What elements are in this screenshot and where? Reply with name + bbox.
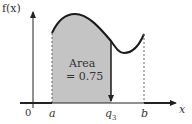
x-axis-label: x	[179, 103, 186, 116]
area-label-line2: = 0.75	[66, 70, 103, 83]
q3-tick-label: q	[105, 107, 112, 120]
a-tick-label: a	[49, 107, 56, 120]
density-diagram: f(x) x 0 a q 3 b Area = 0.75	[0, 0, 192, 124]
q3-subscript: 3	[112, 114, 116, 122]
b-tick-label: b	[141, 107, 148, 120]
origin-label: 0	[25, 107, 31, 118]
y-axis-label: f(x)	[2, 2, 21, 15]
area-label-line1: Area	[68, 57, 96, 70]
